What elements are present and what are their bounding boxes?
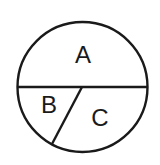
- region-label-c: C: [91, 106, 108, 130]
- circle-diagram: [0, 0, 160, 165]
- region-label-b: B: [41, 93, 57, 117]
- region-label-a: A: [75, 43, 91, 67]
